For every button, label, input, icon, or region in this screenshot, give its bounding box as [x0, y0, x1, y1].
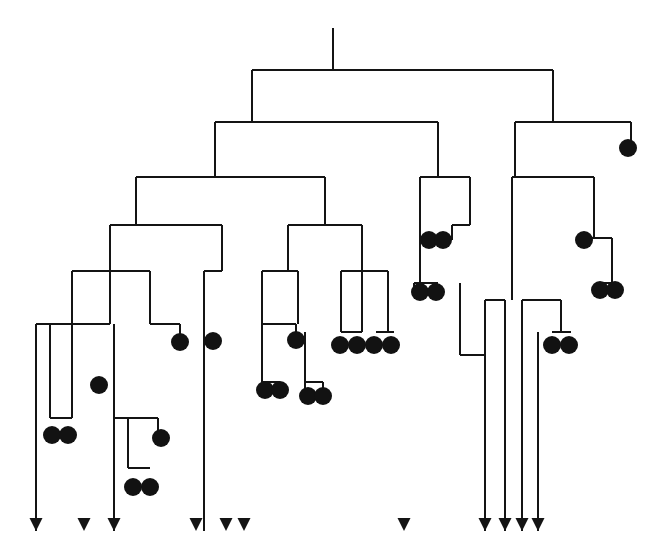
terminal-node-dot-d14: [365, 336, 383, 354]
figure-background: [0, 0, 666, 555]
terminal-node-dot-d16: [543, 336, 561, 354]
terminal-node-dot-d09: [171, 333, 189, 351]
terminal-node-dot-d12: [331, 336, 349, 354]
terminal-node-dot-d06: [606, 281, 624, 299]
terminal-node-dot-d27: [141, 478, 159, 496]
cladogram-figure: [0, 0, 666, 555]
terminal-node-dot-d01: [619, 139, 637, 157]
terminal-node-dot-d13: [348, 336, 366, 354]
terminal-node-dot-d26: [124, 478, 142, 496]
cladogram-canvas: [0, 0, 666, 555]
terminal-node-dot-d18: [90, 376, 108, 394]
terminal-node-dot-d22: [314, 387, 332, 405]
terminal-node-dot-d07: [411, 283, 429, 301]
terminal-node-dot-d03: [434, 231, 452, 249]
terminal-node-dot-d24: [59, 426, 77, 444]
terminal-node-dot-d10: [204, 332, 222, 350]
terminal-node-dot-d08: [427, 283, 445, 301]
terminal-node-dot-d25: [152, 429, 170, 447]
terminal-node-dot-d23: [43, 426, 61, 444]
terminal-node-dot-d11: [287, 331, 305, 349]
terminal-node-dot-d04: [575, 231, 593, 249]
terminal-node-dot-d15: [382, 336, 400, 354]
terminal-node-dot-d17: [560, 336, 578, 354]
terminal-node-dot-d20: [271, 381, 289, 399]
